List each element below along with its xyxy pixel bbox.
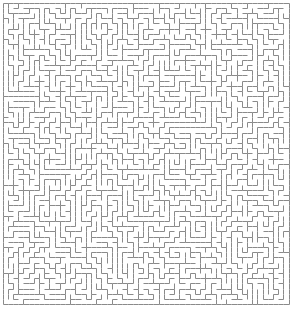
maze-canvas: [0, 0, 295, 312]
maze-container: [0, 0, 295, 312]
